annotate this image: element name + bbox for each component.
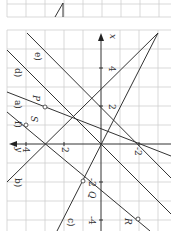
line-b: [7, 33, 158, 182]
point-label-Q: Q: [87, 191, 97, 199]
point-P: [43, 105, 47, 109]
line-label-f: f): [13, 121, 23, 128]
x-tick-4: 4: [107, 66, 117, 72]
point-label-P: P: [31, 94, 41, 102]
grid: [7, 30, 171, 231]
line-label-c: c): [66, 218, 76, 227]
y-tick-4: 4: [21, 147, 31, 153]
line-label-a: a): [13, 100, 23, 109]
coordinate-diagram: y 4 2 -2 x 4 2 -2 -4 e) d) a) f) b) c) P…: [0, 0, 171, 231]
x-tick-neg4: -4: [87, 216, 97, 225]
y-tick-2: 2: [60, 147, 70, 153]
line-label-d: d): [13, 68, 23, 77]
x-axis-arrow-icon: [98, 33, 104, 41]
line-label-e: e): [33, 52, 43, 61]
point-R: [136, 217, 140, 221]
line-e: [27, 33, 171, 178]
x-tick-neg2: -2: [87, 178, 97, 187]
y-tick-neg2: -2: [133, 147, 143, 156]
point-S: [24, 123, 28, 127]
line-label-b: b): [13, 178, 23, 187]
point-label-S: S: [29, 116, 39, 122]
x-tick-2: 2: [107, 104, 117, 110]
point-Q: [81, 179, 85, 183]
top-fragment-lines: [55, 3, 63, 17]
point-label-R: R: [123, 217, 133, 225]
x-axis-label: x: [108, 34, 118, 39]
top-grid-fragment: [7, 0, 171, 17]
